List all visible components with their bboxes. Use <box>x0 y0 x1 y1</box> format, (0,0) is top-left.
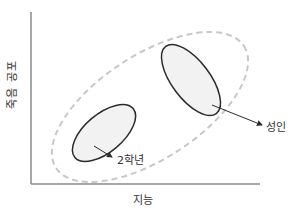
arrow-adult <box>212 105 262 125</box>
x-axis-label: 지능 <box>133 194 153 207</box>
label-adult: 성인 <box>266 121 286 134</box>
diagram-canvas: 2학년 성인 지능 <box>0 0 301 217</box>
outer-dashed-region <box>28 2 273 211</box>
label-2nd-grade: 2학년 <box>117 154 144 167</box>
ellipse-adult <box>151 35 232 125</box>
y-axis-label: 죽음 공포 <box>6 60 20 109</box>
